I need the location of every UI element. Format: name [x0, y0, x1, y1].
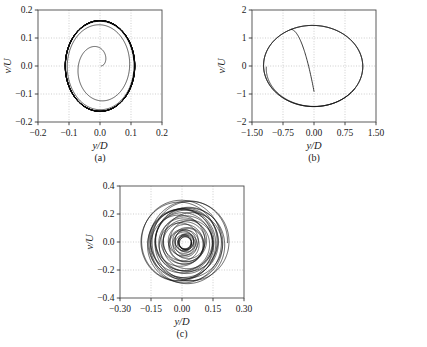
- x-tick-label: 1.50: [368, 128, 385, 138]
- y-tick-label: 0: [242, 61, 247, 71]
- figure-phase-portraits: −0.2−0.10.00.10.2−0.2−0.10.00.10.2y/Dv/U…: [0, 0, 427, 347]
- y-axis-label: v/U: [84, 233, 95, 250]
- panel-caption: (c): [176, 328, 187, 340]
- panel-b-plot: −1.50−0.750.000.751.50−2−1012y/Dv/U(b): [214, 0, 384, 166]
- y-tick-label: 0.2: [21, 5, 33, 15]
- x-tick-label: 0.00: [306, 128, 323, 138]
- x-tick-label: −0.75: [272, 128, 294, 138]
- x-tick-label: −1.50: [241, 128, 263, 138]
- y-tick-label: −2: [236, 117, 246, 127]
- x-tick-label: −0.30: [109, 304, 131, 314]
- y-tick-label: −0.2: [15, 117, 32, 127]
- y-tick-label: 0.0: [21, 61, 33, 71]
- y-tick-label: 0.4: [103, 181, 115, 191]
- y-tick-label: 0.0: [103, 237, 115, 247]
- x-tick-label: 0.1: [125, 128, 137, 138]
- y-tick-label: −1: [236, 89, 246, 99]
- x-tick-label: −0.15: [140, 304, 162, 314]
- x-tick-label: 0.00: [174, 304, 191, 314]
- x-axis-label: y/D: [173, 316, 190, 327]
- y-tick-label: 1: [242, 33, 247, 43]
- y-tick-label: 0.2: [103, 209, 115, 219]
- y-tick-label: −0.2: [97, 265, 114, 275]
- x-axis-label: y/D: [305, 140, 322, 151]
- y-tick-label: −0.1: [15, 89, 32, 99]
- panel-a-plot: −0.2−0.10.00.10.2−0.2−0.10.00.10.2y/Dv/U…: [0, 0, 170, 166]
- y-tick-label: −0.4: [97, 293, 114, 303]
- x-tick-label: 0.30: [236, 304, 253, 314]
- x-tick-label: 0.75: [337, 128, 354, 138]
- y-axis-label: v/U: [2, 57, 13, 74]
- x-tick-label: −0.2: [29, 128, 46, 138]
- y-tick-label: 0.1: [21, 33, 33, 43]
- panel-caption: (a): [94, 152, 105, 164]
- x-axis-label: y/D: [91, 140, 108, 151]
- x-tick-label: 0.0: [94, 128, 106, 138]
- y-tick-label: 2: [242, 5, 247, 15]
- panel-a: −0.2−0.10.00.10.2−0.2−0.10.00.10.2y/Dv/U…: [0, 0, 170, 166]
- panel-c-plot: −0.30−0.150.000.150.30−0.4−0.20.00.20.4y…: [82, 176, 252, 342]
- x-tick-label: −0.1: [60, 128, 77, 138]
- x-tick-label: 0.15: [205, 304, 222, 314]
- panel-caption: (b): [308, 152, 320, 164]
- panel-b: −1.50−0.750.000.751.50−2−1012y/Dv/U(b): [214, 0, 384, 166]
- x-tick-label: 0.2: [156, 128, 168, 138]
- panel-c: −0.30−0.150.000.150.30−0.4−0.20.00.20.4y…: [82, 176, 252, 342]
- y-axis-label: v/U: [216, 57, 227, 74]
